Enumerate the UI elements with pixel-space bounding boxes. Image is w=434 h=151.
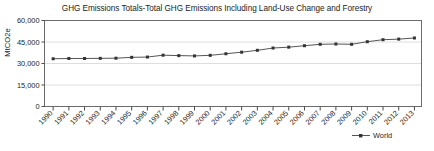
data-point-marker [272,47,275,50]
x-axis-tick-label: 1994 [99,109,117,127]
x-axis-tick-label: 2000 [194,109,212,127]
data-point-marker [52,57,55,60]
data-point-marker [162,54,165,57]
x-axis-tick-label: 2003 [241,109,259,127]
x-axis-tick-label: 2004 [256,109,274,127]
data-point-marker [114,57,117,60]
data-point-marker [366,40,369,43]
x-axis-tick-label: 2002 [225,109,243,127]
data-point-marker [240,51,243,54]
plot-area: 015,00030,00045,00060,000199019911992199… [0,0,434,151]
y-axis-tick-label: 60,000 [17,16,40,25]
x-axis-tick-label: 2001 [209,109,227,127]
x-axis-tick-label: 1998 [162,109,180,127]
data-point-marker [224,52,227,55]
data-point-marker [99,57,102,60]
x-axis-tick-label: 2005 [272,109,290,127]
data-point-marker [397,38,400,41]
y-axis-tick-label: 45,000 [17,38,40,47]
data-point-marker [146,56,149,59]
chart-legend: World [352,131,392,140]
x-axis-tick-label: 2013 [398,109,416,127]
data-point-marker [130,56,133,59]
x-axis-tick-label: 1996 [131,109,149,127]
legend-label-world: World [373,131,392,140]
x-axis-tick-label: 2012 [382,109,400,127]
data-point-marker [177,54,180,57]
data-point-marker [83,57,86,60]
x-axis-tick-label: 1993 [84,109,102,127]
y-axis-tick-label: 0 [35,102,39,111]
data-point-marker [319,43,322,46]
x-axis-tick-label: 2010 [351,109,369,127]
x-axis-tick-label: 2006 [288,109,306,127]
data-point-marker [67,57,70,60]
data-point-marker [334,43,337,46]
x-axis-tick-label: 2009 [335,109,353,127]
y-axis-tick-label: 15,000 [17,81,40,90]
x-axis-tick-label: 1997 [147,109,165,127]
data-point-marker [303,44,306,47]
series-line-world [53,38,414,59]
x-axis-tick-label: 1992 [68,109,86,127]
data-point-marker [287,46,290,49]
data-point-marker [413,36,416,39]
x-axis-tick-label: 1991 [52,109,70,127]
x-axis-tick-label: 2007 [304,109,322,127]
ghg-emissions-line-chart: GHG Emissions Totals-Total GHG Emissions… [0,0,434,151]
x-axis-tick-label: 1999 [178,109,196,127]
data-point-marker [382,38,385,41]
data-point-marker [256,49,259,52]
legend-line-marker-icon [352,132,370,139]
y-axis-tick-label: 30,000 [17,59,40,68]
x-axis-tick-label: 2008 [319,109,337,127]
x-axis-tick-label: 2011 [367,109,385,127]
data-point-marker [350,43,353,46]
data-point-marker [209,54,212,57]
x-axis-tick-label: 1990 [37,109,55,127]
x-axis-tick-label: 1995 [115,109,133,127]
data-point-marker [193,54,196,57]
